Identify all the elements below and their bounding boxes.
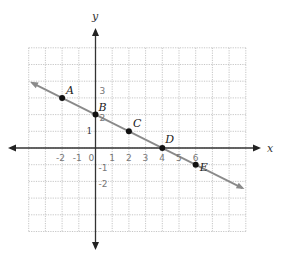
x-axis-arrow-icon-right xyxy=(253,145,261,152)
y-axis-arrow-icon-up xyxy=(92,28,99,36)
x-tick-handwritten: 4 xyxy=(159,153,165,163)
grid xyxy=(29,48,246,232)
tick-labels: 1-2-1012345632-1-2 xyxy=(56,86,199,189)
x-tick-handwritten: 1 xyxy=(109,153,115,163)
y-axis-label: y xyxy=(91,10,99,23)
y-tick-handwritten: -1 xyxy=(99,163,108,173)
x-axis-label: x xyxy=(267,142,274,155)
x-tick-handwritten: -1 xyxy=(73,153,82,163)
coordinate-graph: ABCDE 1-2-1012345632-1-2 x y xyxy=(0,0,284,260)
y-tick-handwritten: 2 xyxy=(100,113,106,123)
x-tick-handwritten: 0 xyxy=(89,153,95,163)
point-label-e: E xyxy=(199,161,208,174)
point-a xyxy=(59,95,65,101)
y-tick-printed: 1 xyxy=(87,126,93,136)
axes xyxy=(8,28,261,250)
line-arrow-icon-right xyxy=(236,183,245,189)
y-tick-handwritten: 3 xyxy=(100,86,106,96)
x-tick-handwritten: 6 xyxy=(193,153,199,163)
point-c xyxy=(126,128,132,134)
line-arrow-icon-left xyxy=(30,82,39,88)
point-label-d: D xyxy=(164,133,174,146)
x-tick-handwritten: 3 xyxy=(143,153,149,163)
point-label-a: A xyxy=(65,84,74,97)
x-tick-handwritten: -2 xyxy=(56,153,65,163)
x-tick-handwritten: 5 xyxy=(176,153,182,163)
y-axis-arrow-icon-down xyxy=(92,242,99,250)
y-tick-handwritten: -2 xyxy=(99,179,108,189)
x-tick-handwritten: 2 xyxy=(126,153,132,163)
point-label-c: C xyxy=(133,117,142,130)
x-axis-arrow-icon-left xyxy=(8,145,16,152)
